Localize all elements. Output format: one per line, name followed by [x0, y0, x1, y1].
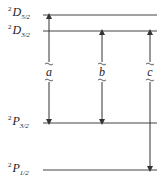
transition-arrow-c [146, 32, 154, 169]
transition-label-a: a [45, 66, 53, 78]
level-label-P32: 2P3/2 [8, 115, 29, 130]
transition-label-b: b [98, 66, 106, 78]
transition-label-c: c [146, 66, 153, 78]
level-label-D52: 2D5/2 [8, 6, 30, 21]
level-label-P12: 2P1/2 [8, 162, 29, 177]
level-label-D32: 2D3/2 [8, 24, 30, 39]
